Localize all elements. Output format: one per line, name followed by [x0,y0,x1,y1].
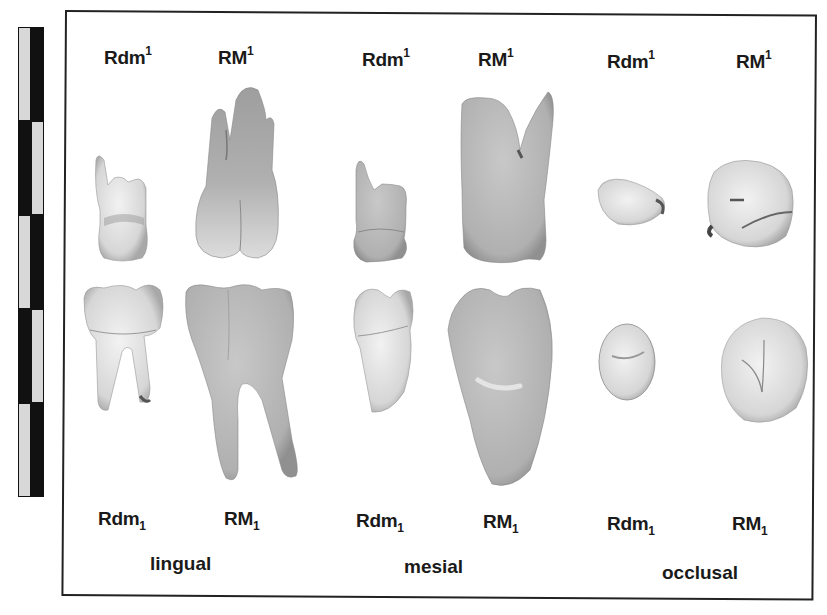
view-label-mesial: mesial [404,556,463,578]
tooth-mesial-upper-rdm1 [354,161,407,262]
label-lower-mesial-rdm: Rdm1 [356,510,404,535]
view-label-occlusal: occlusal [662,562,738,584]
tooth-occlusal-lower-rm1 [721,318,807,422]
label-upper-lingual-rdm: Rdm1 [104,44,152,69]
label-upper-occlusal-rm: RM1 [736,48,771,73]
label-lower-occlusal-rm: RM1 [732,513,767,538]
view-label-lingual: lingual [150,553,211,575]
tooth-lingual-upper-rdm1 [96,156,148,261]
label-lower-lingual-rm: RM1 [224,508,259,533]
tooth-occlusal-upper-rm1 [708,160,793,247]
label-upper-occlusal-rdm: Rdm1 [607,48,655,73]
tooth-mesial-lower-rm1 [448,288,552,485]
label-lower-lingual-rdm: Rdm1 [98,508,146,533]
tooth-occlusal-lower-rdm1 [599,324,655,400]
label-lower-mesial-rm: RM1 [483,511,518,536]
tooth-occlusal-upper-rdm1 [598,179,665,225]
tooth-mesial-upper-rm1 [461,92,553,263]
label-upper-mesial-rm: RM1 [478,46,513,71]
label-lower-occlusal-rdm: Rdm1 [607,513,655,538]
tooth-lingual-upper-rm1 [196,88,279,258]
tooth-mesial-lower-rdm1 [354,289,413,412]
tooth-lingual-lower-rm1 [186,285,298,480]
label-upper-mesial-rdm: Rdm1 [362,46,410,71]
label-upper-lingual-rm: RM1 [218,44,253,69]
tooth-lingual-lower-rdm1 [84,285,163,410]
